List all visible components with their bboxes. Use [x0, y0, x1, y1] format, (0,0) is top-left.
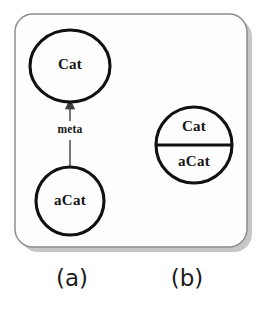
- split-circle-top-label: Cat: [182, 118, 206, 134]
- split-circle-bottom-label: aCat: [178, 153, 210, 169]
- figure-canvas: Cat meta aCat (a) Cat aCat (b): [0, 0, 267, 311]
- meta-edge-label: meta: [57, 123, 82, 135]
- acat-circle-label: aCat: [54, 192, 86, 208]
- panel-b-caption: (b): [171, 265, 204, 291]
- cat-ellipse-label: Cat: [58, 56, 82, 72]
- panel-a-caption: (a): [56, 265, 88, 291]
- figure-root: Cat meta aCat (a) Cat aCat (b): [0, 0, 267, 311]
